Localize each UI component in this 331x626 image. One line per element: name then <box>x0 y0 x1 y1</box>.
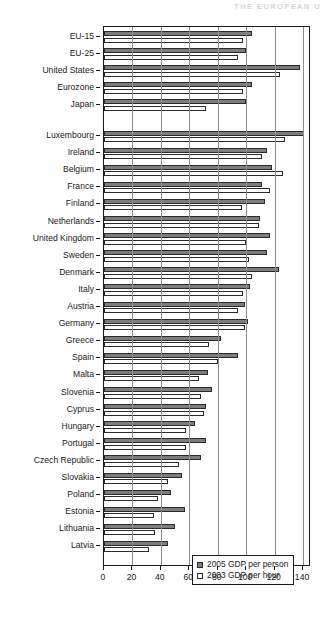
bar-2005-gdp-per-person <box>104 216 260 221</box>
bar-2005-gdp-per-person <box>104 82 252 87</box>
bar-2003-gdp-per-hour <box>104 72 280 77</box>
bar-rows <box>104 27 309 565</box>
bar-row <box>104 282 309 299</box>
category-label: Germany <box>59 318 94 328</box>
category-tick <box>96 152 100 153</box>
bar-row <box>104 436 309 453</box>
bar-2003-gdp-per-hour <box>104 291 243 296</box>
bar-row <box>104 129 309 146</box>
bar-2003-gdp-per-hour <box>104 496 158 501</box>
bar-row <box>104 539 309 556</box>
category-tick <box>96 374 100 375</box>
category-label: Cyprus <box>67 404 94 414</box>
category-tick <box>96 53 100 54</box>
bar-2003-gdp-per-hour <box>104 445 186 450</box>
bar-2003-gdp-per-hour <box>104 547 149 552</box>
bar-2005-gdp-per-person <box>104 48 246 53</box>
bar-2005-gdp-per-person <box>104 455 201 460</box>
category-tick <box>96 409 100 410</box>
category-label: Portugal <box>62 438 94 448</box>
bar-2003-gdp-per-hour <box>104 137 285 142</box>
category-tick <box>96 87 100 88</box>
category-tick <box>96 392 100 393</box>
bar-2005-gdp-per-person <box>104 182 262 187</box>
gridline-40 <box>161 27 162 565</box>
category-label: Netherlands <box>48 216 94 226</box>
figure-root: THE EUROPEAN U EU-15EU-25United StatesEu… <box>0 0 331 626</box>
x-tick-100 <box>245 566 246 570</box>
bar-2003-gdp-per-hour <box>104 205 242 210</box>
category-label: Hungary <box>62 421 94 431</box>
bar-2003-gdp-per-hour <box>104 223 259 228</box>
category-label: EU-15 <box>70 31 94 41</box>
gridline-60 <box>189 27 190 565</box>
category-label: Slovakia <box>62 472 94 482</box>
bar-row <box>104 197 309 214</box>
category-label: United Kingdom <box>33 233 94 243</box>
category-label: France <box>67 181 94 191</box>
bar-row <box>104 334 309 351</box>
bar-2005-gdp-per-person <box>104 507 185 512</box>
category-tick <box>96 203 100 204</box>
category-tick <box>96 426 100 427</box>
category-label: Austria <box>67 301 94 311</box>
bar-2005-gdp-per-person <box>104 524 175 529</box>
bar-2005-gdp-per-person <box>104 404 206 409</box>
gridline-140 <box>303 27 304 565</box>
bar-2005-gdp-per-person <box>104 302 245 307</box>
bar-2005-gdp-per-person <box>104 336 221 341</box>
x-tick-label: 120 <box>259 572 289 582</box>
category-tick <box>96 221 100 222</box>
bar-2003-gdp-per-hour <box>104 154 262 159</box>
category-tick <box>96 255 100 256</box>
bar-2003-gdp-per-hour <box>104 479 168 484</box>
category-axis-labels: EU-15EU-25United StatesEurozoneJapanLuxe… <box>0 26 100 566</box>
category-label: EU-25 <box>70 48 94 58</box>
gridline-120 <box>275 27 276 565</box>
bar-chart: EU-15EU-25United StatesEurozoneJapanLuxe… <box>0 26 331 598</box>
gridline-100 <box>246 27 247 565</box>
bar-row <box>104 419 309 436</box>
category-tick <box>96 357 100 358</box>
x-tick-label: 40 <box>145 572 175 582</box>
bar-2003-gdp-per-hour <box>104 171 283 176</box>
bar-2005-gdp-per-person <box>104 267 279 272</box>
plot-area <box>103 26 310 566</box>
x-tick-label: 140 <box>287 572 317 582</box>
category-tick <box>96 494 100 495</box>
x-tick-80 <box>217 566 218 570</box>
category-tick <box>96 289 100 290</box>
bar-2005-gdp-per-person <box>104 148 267 153</box>
bar-row <box>104 163 309 180</box>
category-label: Sweden <box>63 250 94 260</box>
x-tick-140 <box>302 566 303 570</box>
category-label: Malta <box>73 369 94 379</box>
category-tick <box>96 70 100 71</box>
category-label: United States <box>42 65 94 75</box>
category-tick <box>96 545 100 546</box>
category-tick <box>96 528 100 529</box>
bar-2003-gdp-per-hour <box>104 342 209 347</box>
category-tick <box>96 272 100 273</box>
category-tick <box>96 238 100 239</box>
bar-2005-gdp-per-person <box>104 541 168 546</box>
category-tick <box>96 135 100 136</box>
bar-row <box>104 402 309 419</box>
bar-2005-gdp-per-person <box>104 31 252 36</box>
category-tick <box>96 323 100 324</box>
bar-2003-gdp-per-hour <box>104 274 252 279</box>
category-label: Poland <box>67 489 94 499</box>
running-header: THE EUROPEAN U <box>234 2 321 11</box>
category-label: Greece <box>66 335 94 345</box>
legend-item: 2005 GDP per person <box>197 559 288 570</box>
bar-2003-gdp-per-hour <box>104 325 245 330</box>
category-tick <box>96 511 100 512</box>
bar-2003-gdp-per-hour <box>104 257 249 262</box>
category-tick <box>96 340 100 341</box>
bar-row <box>104 317 309 334</box>
category-label: Japan <box>71 99 94 109</box>
category-tick <box>96 443 100 444</box>
x-tick-label: 60 <box>173 572 203 582</box>
category-tick <box>96 36 100 37</box>
gridline-20 <box>132 27 133 565</box>
